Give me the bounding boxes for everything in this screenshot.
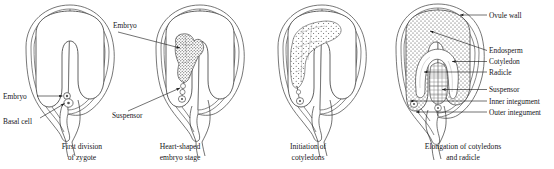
label-radicle: Radicle xyxy=(489,68,512,77)
label-cotyledon: Cotyledon xyxy=(489,57,520,66)
label-endosperm: Endosperm xyxy=(489,46,523,55)
label-suspensor-2: Suspensor xyxy=(112,111,143,120)
caption-panel-4-line-2: and radicle xyxy=(446,153,480,162)
label-ovule-wall: Ovule wall xyxy=(489,11,522,20)
radicle-4 xyxy=(429,62,448,104)
embryo-nucleus-1 xyxy=(66,95,68,97)
radicle-outline-4 xyxy=(429,63,447,104)
label-inner-integument: Inner integument xyxy=(489,97,541,106)
caption-panel-1-line-2: of zygote xyxy=(68,153,97,162)
basal-cell-nucleus-1 xyxy=(67,102,70,105)
label-suspensor-4: Suspensor xyxy=(489,85,520,94)
label-embryo-1: Embryo xyxy=(3,92,27,101)
caption-panel-4-line-1: Elongation of cotyledons xyxy=(425,142,501,151)
label-embryo-2: Embryo xyxy=(113,21,137,30)
caption-panel-2-line-2: embryo stage xyxy=(160,153,201,162)
caption-panel-1-line-1: First division xyxy=(62,142,103,151)
caption-panel-3-line-2: cotyledons xyxy=(292,153,325,162)
caption-panel-2-line-1: Heart-shaped xyxy=(160,142,201,151)
caption-panel-3-line-1: Initiation of xyxy=(290,142,327,151)
label-basal-cell-1: Basal cell xyxy=(3,117,32,126)
label-outer-integument: Outer integument xyxy=(489,108,542,117)
seed-development-figure: Embryo Basal cell Embryo xyxy=(0,0,554,169)
